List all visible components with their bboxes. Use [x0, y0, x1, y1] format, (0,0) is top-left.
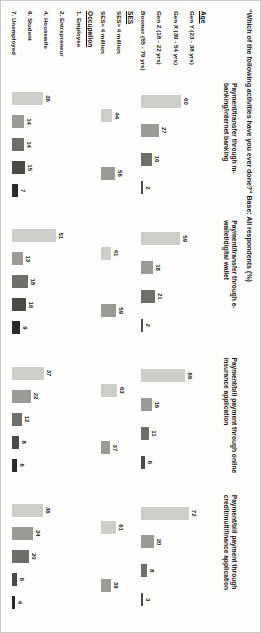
- bar-value-label: 21: [157, 285, 163, 308]
- bar-value-label: 20: [31, 545, 37, 568]
- bar: [141, 124, 159, 137]
- bar-value-label: 6: [19, 454, 25, 477]
- bar-value-label: 37: [46, 362, 52, 385]
- bar-value-label: 18: [155, 256, 161, 279]
- bar-value-label: 6: [19, 568, 25, 591]
- chart-frame: “Which of the following activities have …: [0, 0, 261, 633]
- bar-value-label: 13: [25, 247, 31, 270]
- bar: [141, 369, 185, 382]
- bar-value-label: 16: [154, 393, 160, 416]
- bar: [12, 161, 25, 174]
- bar-value-label: 51: [58, 224, 64, 247]
- bar: [12, 367, 44, 380]
- category-label: Gen Y (23 - 38 yrs): [189, 11, 196, 65]
- bar: [12, 527, 33, 540]
- bar: [141, 290, 155, 303]
- bar-value-label: 16: [154, 148, 160, 171]
- category-label: Gen Z (18 - 22 yrs): [156, 11, 163, 65]
- category-label: 4. Housewife: [43, 11, 50, 49]
- bar: [141, 261, 153, 274]
- bar-value-label: 72: [191, 502, 197, 525]
- bar-value-label: 37: [112, 436, 118, 459]
- bar: [12, 184, 18, 197]
- bar: [12, 504, 43, 517]
- bar: [12, 115, 24, 128]
- bar-value-label: 59: [182, 227, 188, 250]
- bar: [12, 252, 23, 265]
- bar: [12, 596, 15, 609]
- bar: [12, 229, 56, 242]
- bar: [12, 298, 26, 311]
- chart-plot-area: Payment/transfer through m-banking/inter…: [6, 9, 240, 626]
- bar-value-label: 24: [35, 522, 41, 545]
- bar: [141, 535, 154, 548]
- bar: [141, 456, 145, 469]
- bar: [141, 319, 143, 332]
- bar-value-label: 66: [187, 364, 193, 387]
- bar-value-label: 9: [22, 316, 28, 339]
- bar-value-label: 56: [117, 162, 123, 185]
- group-heading-occupation: Occupation: [87, 11, 94, 47]
- bar: [141, 427, 148, 440]
- group-heading-ses: SES: [127, 11, 134, 24]
- bar: [141, 232, 180, 245]
- bar: [141, 181, 143, 194]
- bar-value-label: 20: [156, 530, 162, 553]
- panel-title-creditmulti: Payment/bill payment through credit/mult…: [222, 495, 238, 618]
- bar: [101, 167, 115, 180]
- bar: [101, 304, 116, 317]
- chart-title: “Which of the following activities have …: [245, 9, 254, 282]
- bar: [101, 441, 110, 454]
- panel-title-insurance: Payment/bill payment through online insu…: [222, 358, 238, 481]
- bar-value-label: 59: [118, 299, 124, 322]
- category-label: 7. Unemployed: [11, 11, 18, 55]
- bar-value-label: 8: [21, 431, 27, 454]
- bar-value-label: 12: [24, 408, 30, 431]
- bar-value-label: 41: [113, 242, 119, 265]
- bar-value-label: 15: [27, 156, 33, 179]
- bar-value-label: 6: [147, 451, 153, 474]
- bar: [12, 436, 19, 449]
- bar: [101, 521, 117, 534]
- bar: [101, 384, 117, 397]
- bar: [101, 109, 112, 122]
- bar-value-label: 2: [145, 314, 151, 337]
- bar-value-label: 16: [28, 293, 34, 316]
- bar: [141, 507, 188, 520]
- category-label: Gen X (39 - 54 yrs): [173, 11, 180, 65]
- bar-value-label: 7: [20, 179, 26, 202]
- bar-value-label: 11: [151, 422, 157, 445]
- bar: [12, 138, 24, 151]
- bar-value-label: 2: [145, 176, 151, 199]
- category-label: 1. Employee: [76, 11, 83, 47]
- group-heading-age: Age: [200, 11, 207, 23]
- panel-title-ewallet: Payment/transfer through e-wallet/digita…: [222, 220, 238, 343]
- bar-value-label: 63: [119, 379, 125, 402]
- bar: [12, 390, 31, 403]
- bar: [141, 153, 152, 166]
- bar-value-label: 4: [17, 591, 23, 614]
- bar: [12, 573, 17, 586]
- bar-value-label: 39: [113, 574, 119, 597]
- bar: [101, 247, 111, 260]
- bar: [141, 95, 181, 108]
- category-label: SES< 4 million: [100, 11, 107, 54]
- bar-value-label: 27: [161, 119, 167, 142]
- bar: [12, 413, 22, 426]
- bar: [12, 459, 17, 472]
- category-label: 2. Entrepreneur: [59, 11, 66, 57]
- bar: [141, 564, 146, 577]
- category-label: Boomer (55 - 79 yrs): [140, 11, 147, 71]
- chart-sheet: “Which of the following activities have …: [0, 0, 261, 633]
- bar-value-label: 18: [30, 270, 36, 293]
- bar: [12, 321, 20, 334]
- category-label: SES> 4 million: [116, 11, 123, 54]
- bar: [12, 550, 29, 563]
- bar-value-label: 60: [183, 90, 189, 113]
- category-label: 6. Student: [27, 11, 34, 41]
- bar: [12, 92, 43, 105]
- bar-value-label: 22: [33, 385, 39, 408]
- bar-value-label: 61: [118, 516, 124, 539]
- bar-value-label: 14: [26, 110, 32, 133]
- bar-value-label: 3: [145, 588, 151, 611]
